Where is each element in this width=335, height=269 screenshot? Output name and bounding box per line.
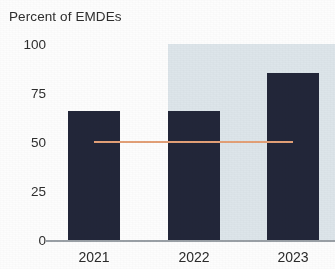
x-axis-baseline — [46, 240, 335, 242]
y-axis-tick-50: 50 — [0, 135, 46, 150]
x-axis-tick-2021: 2021 — [78, 249, 109, 265]
x-axis-tick-2022: 2022 — [178, 249, 209, 265]
y-axis-tick-100: 100 — [0, 37, 46, 52]
chart-title: Percent of EMDEs — [9, 9, 122, 24]
y-axis-tick-25: 25 — [0, 184, 46, 199]
plot-area: 1007550250 202120222023 — [0, 0, 335, 269]
bar-2023 — [267, 73, 319, 240]
x-axis-tick-2023: 2023 — [277, 249, 308, 265]
bar-2021 — [68, 111, 120, 240]
reference-line — [94, 141, 293, 143]
y-axis-tick-0: 0 — [0, 233, 46, 248]
bar-2022 — [168, 111, 220, 240]
chart-figure: Percent of EMDEs 1007550250 202120222023 — [0, 0, 335, 269]
y-axis-tick-75: 75 — [0, 86, 46, 101]
